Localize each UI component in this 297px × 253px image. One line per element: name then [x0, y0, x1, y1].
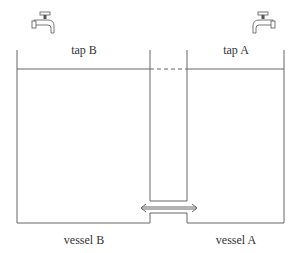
tap-b-icon — [32, 12, 54, 33]
vessel-a-label: vessel A — [216, 233, 257, 247]
tap-a-icon — [253, 12, 275, 33]
vessel-bottom — [17, 213, 284, 223]
tap-b-label: tap B — [71, 43, 97, 57]
communicating-vessels-diagram: tap B tap A vessel B vessel A — [0, 0, 297, 253]
double-arrow-icon — [141, 204, 197, 212]
tap-a-label: tap A — [223, 43, 249, 57]
vessel-b-label: vessel B — [64, 233, 104, 247]
